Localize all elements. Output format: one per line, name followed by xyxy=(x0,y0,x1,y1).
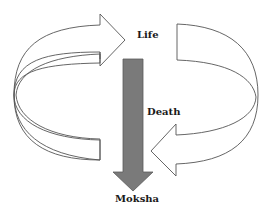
moksha-down-arrow xyxy=(113,59,153,191)
life-label: Life xyxy=(137,29,159,40)
right-cycle-arrow xyxy=(151,24,258,176)
moksha-label: Moksha xyxy=(115,193,159,204)
left-cycle-arrow-head xyxy=(14,14,125,160)
death-label: Death xyxy=(147,106,180,117)
cycle-diagram xyxy=(0,0,272,209)
left-cycle-arrow xyxy=(14,52,100,160)
